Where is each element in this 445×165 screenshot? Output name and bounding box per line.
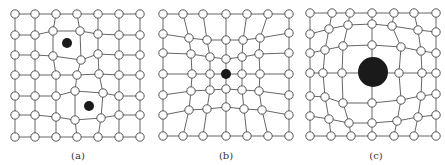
lattice-atom [199,10,207,18]
lattice-atom [255,50,263,58]
lattice-atom [285,132,293,140]
lattice-atom [432,90,440,98]
lattice-atom [115,31,123,39]
lattice-atom [338,69,346,77]
lattice-atom [179,132,187,140]
lattice-atom [395,69,403,77]
lattice-atom [390,9,398,17]
lattice-atom [203,36,211,44]
lattice-atom [432,111,440,119]
lattice-atom [256,34,264,42]
lattice-atom [264,132,272,140]
lattice-atom [115,51,123,59]
lattice-atom [397,43,405,51]
lattice-atom [410,132,418,140]
lattice-atom [73,133,81,141]
lattice-atom [256,70,264,78]
lattice-atom [240,105,248,113]
lattice-atom [238,86,246,94]
lattice-atom [159,132,167,140]
lattice-atom [258,106,266,114]
lattice-atom [76,27,84,35]
lattice-atom [159,10,167,18]
lattice-atom [285,49,293,57]
lattice-atom [390,132,398,140]
lattice-atom [115,111,123,119]
lattice-atom [410,9,418,17]
lattice-atom [368,99,376,107]
lattice-atom [136,51,144,59]
lattice-atom [206,70,214,78]
lattice-atom [136,133,144,141]
lattice-atom [95,70,103,78]
lattice-diagram [0,0,445,165]
lattice-atom [31,71,39,79]
lattice-atom [11,51,19,59]
lattice-atom [222,85,230,93]
panel-a [11,10,144,141]
lattice-atom [397,96,405,104]
lattice-atom [136,111,144,119]
lattice-atom [222,132,230,140]
lattice-atom [368,41,376,49]
lattice-atom [264,10,272,18]
lattice-atom [136,71,144,79]
lattice-atom [159,30,167,38]
lattice-atom [239,36,247,44]
lattice-atom [94,30,102,38]
lattice-atom [285,10,293,18]
lattice-atom [339,99,347,107]
lattice-atom [388,22,396,30]
lattice-atom [31,10,39,18]
lattice-atom [432,28,440,36]
lattice-atom [11,92,19,100]
lattice-atom [327,132,335,140]
lattice-atom [418,69,426,77]
lattice-atom [185,34,193,42]
caption-b: (b) [219,150,233,161]
lattice-atom [49,27,57,35]
lattice-atom [339,42,347,50]
lattice-atom [159,111,167,119]
lattice-atom [325,25,333,33]
lattice-atom [52,133,60,141]
lattice-atom [321,93,329,101]
lattice-atom [159,91,167,99]
lattice-atom [94,133,102,141]
lattice-atom [432,69,440,77]
lattice-atom [222,36,230,44]
lattice-atom [203,105,211,113]
lattice-atom [368,119,376,127]
defect-atom [221,69,231,79]
lattice-atom [52,92,60,100]
lattice-atom [73,10,81,18]
lattice-atom [222,10,230,18]
lattice-atom [159,70,167,78]
panel-b [159,10,293,140]
caption-c: (c) [369,150,382,161]
lattice-atom [99,89,107,97]
defect-atom [84,101,94,111]
lattice-atom [368,132,376,140]
lattice-atom [31,92,39,100]
lattice-atom [97,114,105,122]
lattice-atom [306,132,314,140]
lattice-atom [285,111,293,119]
lattice-atom [417,92,425,100]
lattice-atom [179,10,187,18]
lattice-atom [306,69,314,77]
lattice-atom [368,20,376,28]
lattice-atom [432,9,440,17]
lattice-atom [52,10,60,18]
lattice-atom [31,31,39,39]
lattice-atom [136,31,144,39]
lattice-atom [243,132,251,140]
caption-a: (a) [71,150,85,161]
lattice-atom [321,46,329,54]
lattice-atom [344,21,352,29]
lattice-atom [136,10,144,18]
defect-atom [358,57,388,87]
lattice-atom [188,70,196,78]
lattice-atom [345,119,353,127]
lattice-atom [52,71,60,79]
